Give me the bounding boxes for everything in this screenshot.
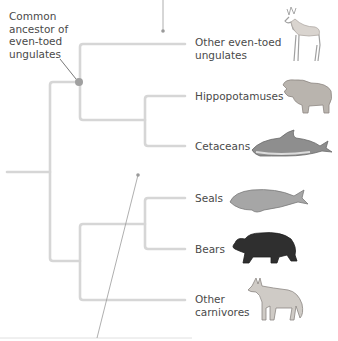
branch-root-split: [50, 82, 80, 261]
bear-icon: [233, 233, 297, 263]
annotation-line: ungulates: [9, 48, 68, 61]
branch-hippo-cetacean: [145, 96, 185, 146]
ancestor-pointer-line: [60, 59, 76, 79]
label-line: Seals: [195, 192, 223, 205]
diagonal-pointer-line: [97, 175, 138, 338]
label-line: ungulates: [195, 49, 281, 62]
seal-icon: [230, 190, 308, 212]
taxon-label-hippopotamuses: Hippopotamuses: [195, 90, 284, 103]
branch-seal-bear: [145, 198, 185, 249]
ancestor-annotation: Common ancestor of even-toed ungulates: [9, 10, 68, 60]
ancestor-node-dot: [75, 78, 83, 86]
label-line: Other even-toed: [195, 36, 281, 49]
taxon-label-seals: Seals: [195, 192, 223, 205]
coyote-icon: [248, 278, 303, 320]
top-pointer-dot: [161, 29, 165, 33]
label-line: Hippopotamuses: [195, 90, 284, 103]
annotation-line: Common: [9, 10, 68, 23]
label-line: Other: [195, 293, 250, 306]
taxon-label-other-carnivores: Other carnivores: [195, 293, 250, 318]
deer-icon: [285, 7, 320, 61]
taxon-label-cetaceans: Cetaceans: [195, 140, 250, 153]
label-line: Bears: [195, 243, 225, 256]
label-line: carnivores: [195, 306, 250, 319]
annotation-line: ancestor of: [9, 23, 68, 36]
diagonal-pointer-dot: [136, 173, 140, 177]
taxon-label-other-even-toed-ungulates: Other even-toed ungulates: [195, 36, 281, 61]
branch-ungulates: [80, 44, 185, 120]
label-line: Cetaceans: [195, 140, 250, 153]
branch-carnivores: [80, 224, 185, 300]
annotation-line: even-toed: [9, 35, 68, 48]
taxon-label-bears: Bears: [195, 243, 225, 256]
dolphin-icon: [252, 130, 332, 156]
hippopotamus-icon: [283, 80, 332, 113]
